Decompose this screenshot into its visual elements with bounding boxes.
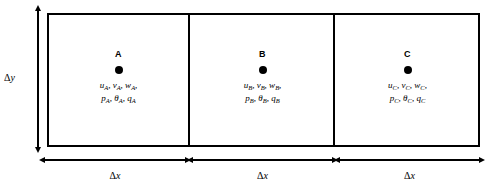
cell-variables-b: uB, vB, wB, pB, θB, qB bbox=[244, 80, 282, 106]
grid-cell-c: C uC, vC, wC, pC, θC, qC bbox=[335, 13, 480, 147]
delta-x-2-var-symbol: x bbox=[263, 170, 267, 181]
cell-marker-dot-b bbox=[259, 66, 267, 74]
cell-variables-c-line1: uC, vC, wC, bbox=[388, 80, 427, 93]
delta-x-arrow-icon-2 bbox=[192, 159, 333, 161]
cell-label-c: C bbox=[404, 49, 411, 59]
var-q-b-subscript: B bbox=[276, 97, 280, 104]
cell-label-a: A bbox=[115, 49, 122, 59]
delta-y-var-symbol: y bbox=[10, 72, 14, 83]
delta-x-arrow-icon-1 bbox=[44, 159, 186, 161]
cell-label-b: B bbox=[259, 49, 266, 59]
delta-y-label: Δy bbox=[4, 72, 15, 83]
delta-x-arrow-icon-3 bbox=[339, 159, 480, 161]
delta-x-label-2: Δx bbox=[192, 170, 333, 181]
cell-variables-a: uA, vA, wA, pA, θA, qA bbox=[100, 80, 138, 106]
grid-cell-b: B uB, vB, wB, pB, θB, qB bbox=[190, 13, 335, 147]
cell-variables-b-line1: uB, vB, wB, bbox=[244, 80, 282, 93]
delta-x-label-1: Δx bbox=[44, 170, 186, 181]
delta-x-3-var-symbol: x bbox=[410, 170, 414, 181]
cell-variables-b-line2: pB, θB, qB bbox=[244, 93, 282, 106]
delta-y-arrow-icon bbox=[37, 10, 39, 148]
cell-variables-c: uC, vC, wC, pC, θC, qC bbox=[388, 80, 427, 106]
cell-marker-dot-c bbox=[404, 66, 412, 74]
var-q-c-subscript: C bbox=[421, 97, 425, 104]
delta-x-1-var-symbol: x bbox=[116, 170, 120, 181]
grid-cell-a: A uA, vA, wA, pA, θA, qA bbox=[47, 13, 190, 147]
cell-variables-a-line1: uA, vA, wA, bbox=[100, 80, 138, 93]
cell-variables-c-line2: pC, θC, qC bbox=[388, 93, 427, 106]
var-q-a-subscript: A bbox=[132, 97, 136, 104]
delta-x-label-3: Δx bbox=[339, 170, 480, 181]
grid-diagram: A uA, vA, wA, pA, θA, qA B uB, vB, wB, p… bbox=[0, 0, 492, 195]
cell-variables-a-line2: pA, θA, qA bbox=[100, 93, 138, 106]
cell-marker-dot-a bbox=[115, 66, 123, 74]
